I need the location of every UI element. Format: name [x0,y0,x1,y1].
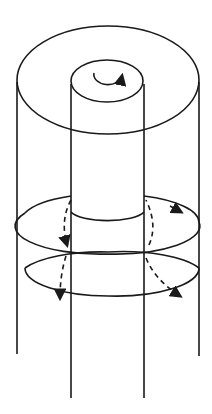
inner-cylinder [71,60,144,398]
lower-ring-loop [25,252,199,298]
coaxial-cylinder-diagram [0,0,212,414]
outer-cylinder [17,26,199,356]
upper-ring-loop [15,196,200,254]
top-circulation-arrow-icon [94,73,122,85]
